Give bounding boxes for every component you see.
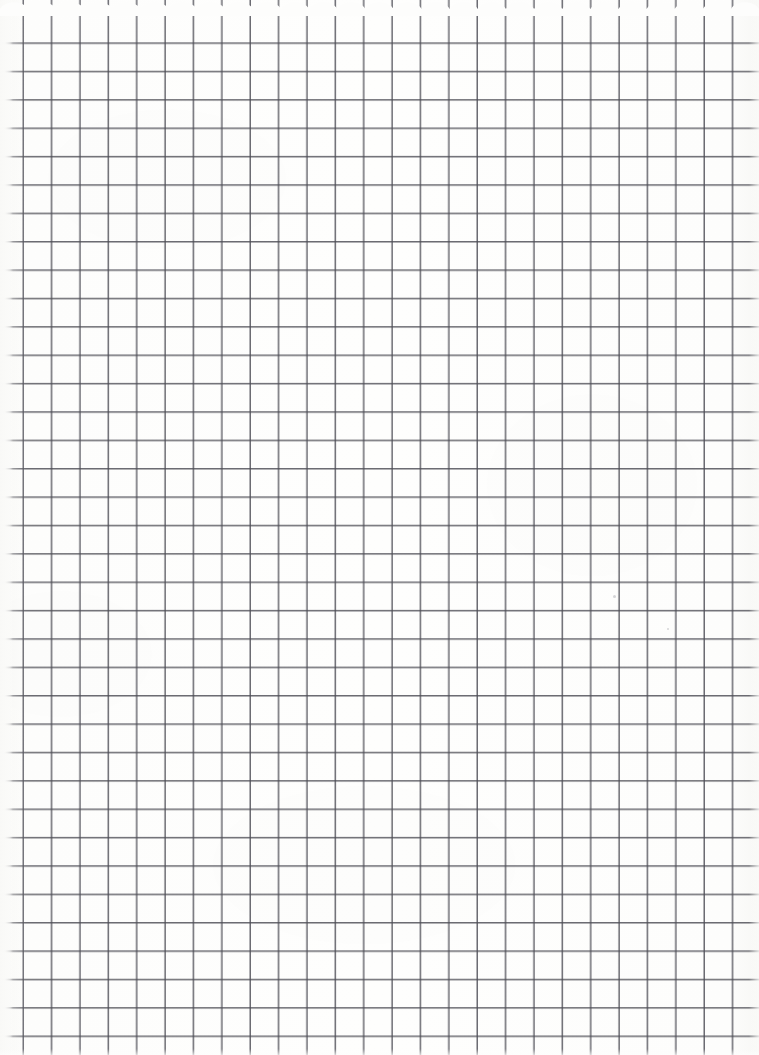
grid-paper-sheet [0,0,759,1055]
paper-background [0,0,759,1055]
